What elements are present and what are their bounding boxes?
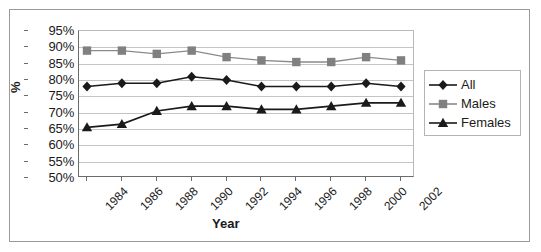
series-layer xyxy=(79,31,415,178)
x-axis-tick-label: 1992 xyxy=(242,185,269,212)
data-point-marker xyxy=(257,56,265,64)
x-axis-tick-label: 1990 xyxy=(207,185,234,212)
y-axis-tick-mark xyxy=(24,128,28,129)
x-axis-tick-label: 1994 xyxy=(277,185,304,212)
y-axis-tick-label: 65% xyxy=(32,122,74,135)
x-axis-tick-label: 2000 xyxy=(382,185,409,212)
x-axis-tick-label: 1988 xyxy=(173,185,200,212)
x-axis-tick-label: 1986 xyxy=(138,185,165,212)
y-axis-tick-mark xyxy=(24,161,28,162)
data-point-marker xyxy=(362,78,371,88)
y-axis-tick-label: 95% xyxy=(32,24,74,37)
x-axis-tick-mark xyxy=(226,177,227,181)
data-point-marker xyxy=(327,58,335,66)
data-point-marker xyxy=(396,82,405,92)
x-axis-tick-label: 1998 xyxy=(347,185,374,212)
x-axis-tick-mark xyxy=(156,177,157,181)
series-females xyxy=(82,98,406,132)
series-line xyxy=(87,77,401,87)
legend-label: All xyxy=(461,78,475,91)
data-point-marker xyxy=(222,53,230,61)
series-all xyxy=(82,72,405,92)
x-axis-tick-label: 1996 xyxy=(312,185,339,212)
y-axis-tick-label: 75% xyxy=(32,89,74,102)
diamond-marker-icon xyxy=(428,77,458,93)
series-line xyxy=(87,51,401,62)
triangle-marker-icon xyxy=(428,115,458,131)
x-axis-tick-label: 1984 xyxy=(103,185,130,212)
y-axis-tick-label: 60% xyxy=(32,138,74,151)
x-axis-tick-mark xyxy=(295,177,296,181)
series-males xyxy=(83,46,405,66)
data-point-marker xyxy=(83,46,91,54)
data-point-marker xyxy=(222,75,231,85)
x-axis-tick-mark xyxy=(365,177,366,181)
y-axis-tick-label: 50% xyxy=(32,171,74,184)
data-point-marker xyxy=(187,46,195,54)
x-axis-tick-mark xyxy=(86,177,87,181)
data-point-marker xyxy=(397,56,405,64)
y-axis-tick-mark xyxy=(24,46,28,47)
y-axis-tick-label: 80% xyxy=(32,73,74,86)
x-axis-tick-mark xyxy=(191,177,192,181)
line-chart: % 95%90%85%80%75%70%65%60%55%50% 1984198… xyxy=(0,0,541,252)
y-axis-tick-mark xyxy=(24,79,28,80)
chart-legend: AllMalesFemales xyxy=(424,70,521,136)
y-axis-tick-label: 85% xyxy=(32,57,74,70)
data-point-marker xyxy=(292,58,300,66)
y-axis-tick-labels: 95%90%85%80%75%70%65%60%55%50% xyxy=(28,30,74,177)
data-point-marker xyxy=(327,82,336,92)
data-point-marker xyxy=(153,50,161,58)
data-point-marker xyxy=(439,99,447,107)
data-point-marker xyxy=(117,78,126,88)
y-axis-tick-mark xyxy=(24,63,28,64)
y-axis-tick-mark xyxy=(24,95,28,96)
y-axis-title: % xyxy=(8,81,23,93)
x-axis-tick-mark xyxy=(121,177,122,181)
legend-item-females[interactable]: Females xyxy=(428,113,520,132)
series-line xyxy=(87,103,401,128)
legend-label: Females xyxy=(461,116,511,129)
legend-item-males[interactable]: Males xyxy=(428,94,520,113)
data-point-marker xyxy=(362,53,370,61)
data-point-marker xyxy=(82,82,91,92)
data-point-marker xyxy=(438,80,447,90)
chart-screenshot: % 95%90%85%80%75%70%65%60%55%50% 1984198… xyxy=(0,0,541,252)
legend-item-all[interactable]: All xyxy=(428,75,520,94)
y-axis-tick-mark xyxy=(24,177,28,178)
data-point-marker xyxy=(118,46,126,54)
x-axis-title: Year xyxy=(212,216,239,231)
x-axis-tick-label: 2002 xyxy=(417,185,444,212)
y-axis-tick-label: 70% xyxy=(32,106,74,119)
data-point-marker xyxy=(292,82,301,92)
legend-label: Males xyxy=(461,97,496,110)
y-axis-tick-mark xyxy=(24,144,28,145)
y-axis-tick-label: 55% xyxy=(32,155,74,168)
y-axis-tick-mark xyxy=(24,112,28,113)
x-axis-tick-mark xyxy=(260,177,261,181)
data-point-marker xyxy=(152,78,161,88)
plot-area xyxy=(78,30,414,177)
x-axis-tick-mark xyxy=(330,177,331,181)
x-axis-tick-mark xyxy=(400,177,401,181)
y-axis-tick-mark xyxy=(24,30,28,31)
data-point-marker xyxy=(257,82,266,92)
y-axis-tick-label: 90% xyxy=(32,40,74,53)
square-marker-icon xyxy=(428,96,458,112)
data-point-marker xyxy=(187,72,196,82)
